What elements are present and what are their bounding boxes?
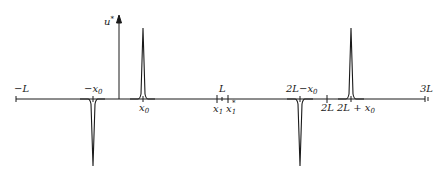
label-x0: x0: [139, 102, 150, 115]
label-u-star: u*: [104, 15, 114, 27]
label-2L-plus-x0: 2L + x0: [336, 102, 375, 115]
diagram-canvas: u* −L −x0 x0 L x1 x1* 2L−x0 2L 2L + x0 3…: [0, 0, 446, 177]
label-x1: x1: [213, 103, 223, 116]
vertical-axis-arrow-icon: [117, 15, 122, 23]
spike-x0: [130, 28, 155, 99]
spike-2L-minus-x0: [287, 99, 313, 166]
label-3L: 3L: [420, 83, 433, 94]
spike-2L-plus-x0: [338, 28, 364, 99]
spike-minus-x0: [80, 99, 105, 166]
label-2L-minus-x0: 2L−x0: [285, 83, 318, 96]
label-L: L: [218, 83, 226, 94]
label-minus-x0: −x0: [84, 83, 103, 96]
label-2L: 2L: [320, 102, 334, 113]
label-minus-L: −L: [14, 83, 29, 94]
